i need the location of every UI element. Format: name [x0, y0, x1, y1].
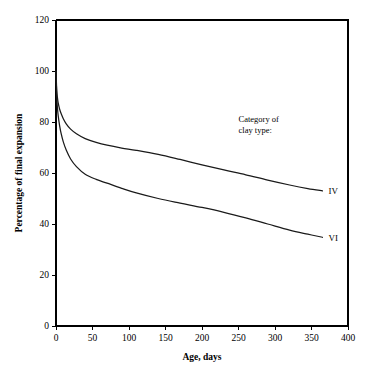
y-tick-label: 40 — [40, 219, 50, 229]
annotation-line: Category of — [239, 114, 280, 124]
series-label-iv: IV — [328, 186, 338, 196]
y-tick-label: 20 — [40, 270, 50, 280]
x-tick-label: 0 — [54, 333, 59, 343]
y-tick-label: 60 — [40, 168, 50, 178]
x-tick-label: 400 — [341, 333, 356, 343]
x-tick-label: 50 — [88, 333, 98, 343]
x-tick-label: 350 — [304, 333, 319, 343]
x-tick-label: 300 — [268, 333, 283, 343]
y-tick-label: 120 — [35, 15, 50, 25]
series-label-vi: VI — [328, 233, 338, 243]
chart-figure: IVVI 020406080100120 0501001502002503003… — [0, 0, 371, 384]
x-tick-label: 100 — [122, 333, 137, 343]
x-axis-title: Age, days — [182, 352, 221, 362]
annotation-line: clay type: — [239, 125, 272, 135]
y-tick-label: 80 — [40, 117, 50, 127]
chart-canvas: IVVI 020406080100120 0501001502002503003… — [0, 0, 371, 384]
y-axis-title: Percentage of final expansion — [14, 113, 24, 233]
y-tick-label: 0 — [44, 321, 49, 331]
x-tick-label: 250 — [231, 333, 246, 343]
x-tick-label: 150 — [158, 333, 173, 343]
x-tick-label: 200 — [195, 333, 210, 343]
y-tick-label: 100 — [35, 66, 50, 76]
